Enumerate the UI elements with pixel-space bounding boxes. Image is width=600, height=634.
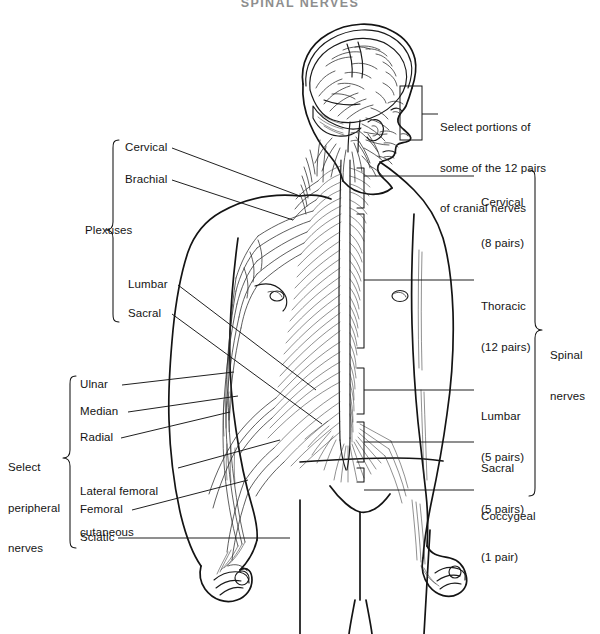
label-spinal-region-sacral-name: Sacral bbox=[481, 462, 524, 476]
sacral-plexus bbox=[244, 448, 284, 496]
label-spinal-region-thoracic: Thoracic (12 pairs) bbox=[481, 273, 531, 381]
right-arm-nerves bbox=[418, 250, 427, 480]
label-spinal-region-cervical-count: (8 pairs) bbox=[481, 237, 524, 251]
lateral-femoral-cutaneous-nerve bbox=[209, 434, 238, 494]
label-brachial-plexus: Brachial bbox=[125, 173, 167, 187]
label-spinal-region-coccygeal-name: Coccygeal bbox=[481, 510, 536, 524]
label-median-nerve: Median bbox=[80, 405, 118, 419]
group-label-select-peripheral-nerves-line2: peripheral bbox=[8, 502, 60, 516]
group-label-spinal-nerves: Spinal nerves bbox=[550, 322, 585, 430]
label-spinal-region-lumbar-name: Lumbar bbox=[481, 410, 524, 424]
group-label-select-peripheral-nerves-line1: Select bbox=[8, 461, 60, 475]
brain bbox=[310, 38, 407, 152]
body-outline bbox=[169, 162, 467, 634]
brachial-plexus bbox=[236, 211, 313, 328]
label-spinal-region-thoracic-count: (12 pairs) bbox=[481, 341, 531, 355]
callout-cranial-nerves-line1: Select portions of bbox=[440, 121, 546, 135]
spinal-cord bbox=[339, 160, 350, 470]
group-label-spinal-nerves-line1: Spinal bbox=[550, 349, 585, 363]
label-spinal-region-coccygeal-count: (1 pair) bbox=[481, 551, 536, 565]
lumbar-plexus bbox=[238, 398, 276, 454]
label-lumbar-plexus: Lumbar bbox=[128, 278, 168, 292]
spinal-nerves-figure: SPINAL NERVES .o { fill:none; stroke:#14… bbox=[0, 0, 600, 634]
label-spinal-region-cervical-name: Cervical bbox=[481, 196, 524, 210]
label-femoral-nerve: Femoral bbox=[80, 503, 123, 517]
group-label-plexuses: Plexuses bbox=[85, 224, 132, 238]
spinal-nerve-roots bbox=[268, 166, 391, 482]
sciatic-nerve bbox=[227, 482, 249, 560]
label-spinal-region-cervical: Cervical (8 pairs) bbox=[481, 169, 524, 277]
label-sciatic-nerve: Sciatic bbox=[80, 531, 115, 545]
label-spinal-region-thoracic-name: Thoracic bbox=[481, 300, 531, 314]
group-label-select-peripheral-nerves: Select peripheral nerves bbox=[8, 434, 60, 583]
label-radial-nerve: Radial bbox=[80, 431, 113, 445]
group-label-spinal-nerves-line2: nerves bbox=[550, 390, 585, 404]
label-ulnar-nerve: Ulnar bbox=[80, 378, 108, 392]
label-cervical-plexus: Cervical bbox=[125, 141, 167, 155]
right-leg-nerves bbox=[385, 441, 439, 586]
label-sacral-plexus: Sacral bbox=[128, 307, 161, 321]
group-label-select-peripheral-nerves-line3: nerves bbox=[8, 542, 60, 556]
label-lateral-femoral-cutaneous-nerve-line1: Lateral femoral bbox=[80, 485, 158, 499]
label-spinal-region-coccygeal: Coccygeal (1 pair) bbox=[481, 483, 536, 591]
